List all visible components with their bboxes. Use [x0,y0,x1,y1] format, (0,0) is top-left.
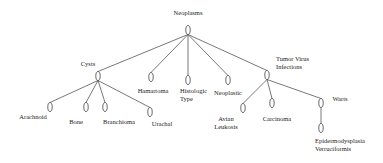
node-label: Urachal [152,120,173,127]
node-oval-icon [241,104,245,113]
node-label: AvianLeukosis [214,115,238,130]
edge-neoplasms-to-hamartoma [151,35,188,73]
node-oval-icon [186,76,190,85]
node-label-line: Neoplastic [214,89,242,96]
node-label-line: Verruciformis [315,145,352,152]
node-label-line: Warts [333,95,348,102]
node-label-line: Epidermodysplasia [315,137,365,144]
node-arachnoid: Arachnoid [19,103,52,121]
edge-cysts-to-arachnoid [50,81,98,103]
edge-neoplasms-to-tumor-virus-infections [188,35,267,71]
node-avian-leukosis: AvianLeukosis [214,104,245,130]
node-oval-icon [319,99,323,108]
node-label-line: Cysts [81,60,96,67]
edge-tumor-virus-infections-to-warts [267,80,321,99]
node-label-line: Tumor Virus [276,55,309,62]
edge-tumor-virus-infections-to-avian-leukosis [243,80,267,104]
node-oval-icon [270,99,274,108]
node-label: Neoplastic [214,89,242,96]
edge-tumor-virus-infections-to-carcinoma [267,80,272,99]
node-urachal: Urachal [148,108,173,128]
node-neoplasms: Neoplasms [174,9,203,35]
node-label: EpidermodysplasiaVerruciformis [315,137,365,152]
nodes-layer: NeoplasmsCystsHamartomaHistologicTypeNeo… [19,9,365,152]
node-oval-icon [96,72,100,81]
edge-neoplasms-to-neoplastic [188,35,228,76]
node-label-line: Urachal [152,120,173,127]
node-label: Branchioma [103,118,135,125]
node-oval-icon [226,76,230,85]
node-hamartoma: Hamartoma [138,73,169,95]
node-carcinoma: Carcinoma [263,99,292,123]
node-label: Neoplasms [174,9,203,16]
node-label: Cysts [81,60,96,67]
node-label-line: Avian [218,115,234,122]
node-label-line: Histologic [180,87,207,94]
node-label-line: Leukosis [214,123,238,130]
node-bone: Bone [69,103,88,126]
node-label: HistologicType [180,87,207,102]
node-oval-icon [103,103,107,112]
node-tumor-virus-infections: Tumor VirusInfections [265,55,310,80]
node-label: Bone [69,118,83,125]
node-label-line: Bone [69,118,83,125]
node-label-line: Arachnoid [19,113,47,120]
node-label-line: Type [180,95,193,102]
node-cysts: Cysts [81,60,100,81]
node-label-line: Infections [276,63,302,70]
node-oval-icon [186,26,190,35]
node-label-line: Hamartoma [138,87,169,94]
node-neoplastic: Neoplastic [214,76,242,97]
tree-diagram: NeoplasmsCystsHamartomaHistologicTypeNeo… [0,0,383,163]
node-label: Tumor VirusInfections [276,55,309,70]
node-label: Arachnoid [19,113,47,120]
node-branchioma: Branchioma [103,103,135,126]
node-oval-icon [148,108,152,117]
node-label-line: Carcinoma [263,115,292,122]
edge-neoplasms-to-cysts [98,35,188,72]
node-oval-icon [48,103,52,112]
node-label: Hamartoma [138,87,169,94]
node-label: Carcinoma [263,115,292,122]
node-oval-icon [149,73,153,82]
node-label: Warts [333,95,348,102]
node-oval-icon [265,71,269,80]
node-epidermodysplasia-verruciformis: EpidermodysplasiaVerruciformis [315,124,365,152]
node-label-line: Neoplasms [174,9,203,16]
node-oval-icon [319,124,323,133]
node-warts: Warts [319,95,348,108]
edge-cysts-to-bone [86,81,98,103]
node-label-line: Branchioma [103,118,135,125]
node-histologic-type: HistologicType [180,76,207,102]
node-oval-icon [84,103,88,112]
